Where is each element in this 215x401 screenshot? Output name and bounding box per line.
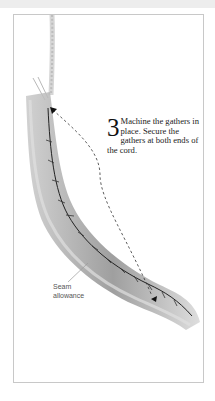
step-text: Machine the gathers in place. Secure the… <box>107 116 199 155</box>
step-number: 3 <box>107 118 120 137</box>
instruction-text: 3 Machine the gathers in place. Secure t… <box>107 117 203 155</box>
gathered-fabric-illustration <box>0 0 215 401</box>
seam-allowance-label: Seam allowance <box>53 282 84 300</box>
cord-icon <box>51 15 52 95</box>
label-line-2: allowance <box>53 292 84 299</box>
label-line-1: Seam <box>53 283 71 290</box>
